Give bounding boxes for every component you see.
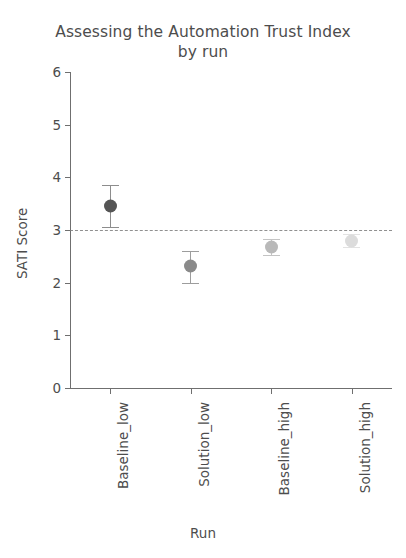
y-tick-mark [65,230,70,231]
y-tick-label: 3 [52,222,61,238]
marker[interactable] [345,234,358,247]
x-tick-mark [110,388,111,394]
y-tick-mark [65,177,70,178]
x-tick-label-solution_low: Solution_low [196,402,212,487]
plot-area: 0123456 Baseline_lowSolution_lowBaseline… [70,72,392,388]
error-bar-cap-upper [102,185,119,186]
y-tick-mark [65,283,70,284]
y-tick-mark [65,72,70,73]
y-tick-mark [65,335,70,336]
y-axis-title: SATI Score [14,208,30,279]
y-tick-label: 6 [52,64,61,80]
chart-title-line-2: by run [178,43,229,61]
marker[interactable] [265,241,278,254]
x-tick-mark [271,388,272,394]
y-tick-label: 1 [52,327,61,343]
x-axis-title: Run [0,525,406,541]
error-bar-cap-lower [182,283,199,284]
marker[interactable] [184,260,197,273]
x-tick-label-baseline_high: Baseline_high [276,402,292,495]
x-axis-line [70,388,392,389]
x-tick-mark [191,388,192,394]
y-tick-label: 5 [52,117,61,133]
x-tick-label-baseline_low: Baseline_low [115,402,131,489]
y-tick-label: 2 [52,275,61,291]
y-tick-mark [65,388,70,389]
error-bar-cap-lower [102,227,119,228]
error-bar-cap-upper [182,251,199,252]
chart-title-line-1: Assessing the Automation Trust Index [55,23,351,41]
y-tick-mark [65,125,70,126]
reference-line [70,230,392,231]
error-bar-cap-upper [263,239,280,240]
error-bar-cap-lower [263,255,280,256]
y-tick-label: 0 [52,380,61,396]
x-tick-mark [352,388,353,394]
x-tick-label-solution_high: Solution_high [357,402,373,493]
marker[interactable] [104,200,117,213]
y-tick-label: 4 [52,169,61,185]
chart-title: Assessing the Automation Trust Index by … [0,22,406,62]
chart-figure: Assessing the Automation Trust Index by … [0,0,406,558]
